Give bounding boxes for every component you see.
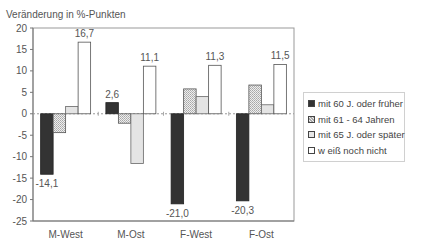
data-label: -20,3 [231, 205, 254, 216]
bar-m-ost-series3 [143, 66, 156, 114]
bar-f-ost-series3 [274, 64, 287, 113]
bar-f-ost-series0 [236, 114, 249, 201]
legend-swatch-icon [308, 147, 315, 154]
legend: mit 60 J. oder früher mit 61 - 64 Jahren… [303, 92, 405, 162]
bar-m-west-series2 [66, 106, 79, 113]
bar-f-ost-series1 [249, 85, 262, 114]
bar-m-west-series1 [53, 114, 66, 133]
bar-f-west-series1 [184, 89, 197, 114]
data-label: -14,1 [35, 178, 58, 189]
x-tick-label: F-Ost [249, 229, 274, 240]
y-tick-label: -10 [13, 151, 28, 162]
data-label: 11,5 [271, 50, 290, 61]
bar-m-west-series0 [41, 114, 54, 174]
legend-swatch-icon [308, 100, 315, 107]
data-label: 2,6 [105, 89, 119, 100]
y-tick-label: 10 [16, 65, 28, 76]
bar-m-ost-series2 [131, 114, 144, 164]
bar-m-west-series3 [78, 42, 91, 114]
bar-m-ost-series0 [106, 103, 119, 114]
legend-item-65-or-later: mit 65 J. oder später [308, 127, 404, 143]
y-tick-label: 20 [16, 23, 28, 34]
plot-border [33, 28, 294, 221]
y-tick-label: -15 [13, 173, 28, 184]
legend-swatch-icon [308, 116, 315, 123]
legend-label: w eiß noch nicht [318, 145, 387, 156]
data-label: -21,0 [166, 208, 189, 219]
bar-f-west-series0 [171, 114, 184, 204]
data-label: 11,3 [206, 51, 225, 62]
legend-item-61-64: mit 61 - 64 Jahren [308, 112, 404, 128]
data-label: 11,1 [140, 52, 159, 63]
y-tick-label: 0 [21, 108, 27, 119]
legend-label: mit 61 - 64 Jahren [318, 114, 395, 125]
bar-f-ost-series2 [261, 105, 274, 114]
x-tick-label: F-West [180, 229, 212, 240]
legend-swatch-icon [308, 131, 315, 138]
x-tick-label: M-West [48, 229, 82, 240]
legend-label: mit 65 J. oder später [318, 129, 405, 140]
y-tick-label: -25 [13, 216, 28, 227]
y-tick-label: 5 [21, 87, 27, 98]
data-label: 16,7 [75, 28, 95, 39]
x-tick-label: M-Ost [117, 229, 144, 240]
bar-m-ost-series1 [118, 114, 131, 123]
y-tick-label: -5 [18, 130, 27, 141]
legend-item-60-or-earlier: mit 60 J. oder früher [308, 96, 404, 112]
bar-f-west-series3 [209, 65, 222, 113]
y-tick-label: -20 [13, 194, 28, 205]
legend-item-dont-know: w eiß noch nicht [308, 143, 404, 159]
bar-f-west-series2 [196, 97, 209, 114]
plot-area [33, 28, 294, 221]
y-tick-label: 15 [16, 44, 28, 55]
legend-label: mit 60 J. oder früher [318, 98, 403, 109]
